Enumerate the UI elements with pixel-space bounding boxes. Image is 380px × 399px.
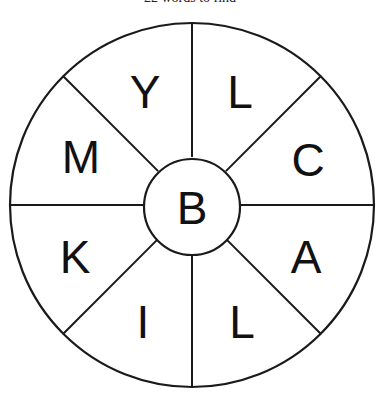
outer-letter[interactable]: Y [130,66,161,118]
letter-wheel: B YLCALIKM [0,0,380,399]
center-letter[interactable]: B [177,182,208,234]
outer-letter[interactable]: I [137,296,150,348]
outer-letter[interactable]: K [60,231,91,283]
outer-letter[interactable]: M [62,131,100,183]
outer-letter[interactable]: L [227,66,253,118]
outer-letter[interactable]: L [229,296,255,348]
outer-letter[interactable]: C [291,134,324,186]
outer-letter[interactable]: A [291,231,322,283]
